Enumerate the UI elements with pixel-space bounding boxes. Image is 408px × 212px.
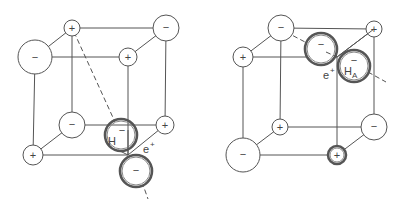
svg-text:+: + bbox=[162, 119, 168, 131]
displaced-anion: − bbox=[305, 33, 337, 65]
svg-text:−: − bbox=[318, 38, 324, 50]
svg-text:−: − bbox=[32, 51, 38, 63]
svg-text:−: − bbox=[278, 21, 284, 33]
svg-text:−: − bbox=[69, 118, 75, 130]
hydrogen-label: H bbox=[108, 135, 116, 147]
svg-text:+: + bbox=[69, 22, 75, 34]
hydrogen-a-anion: − H A bbox=[338, 50, 370, 82]
displaced-anion: − bbox=[120, 155, 152, 187]
svg-text:+: + bbox=[240, 51, 246, 63]
positron-label: e + bbox=[323, 66, 335, 81]
ion-plus: + bbox=[23, 145, 43, 165]
svg-text:−: − bbox=[240, 148, 246, 160]
hydrogen-anion: − H bbox=[105, 119, 137, 151]
svg-text:+: + bbox=[150, 140, 155, 149]
ion-plus: + bbox=[156, 116, 174, 134]
ion-minus: − bbox=[18, 40, 52, 74]
ion-plus-highlighted: + bbox=[328, 146, 346, 164]
right-cube: − + + + − − + − − H A e + bbox=[226, 15, 387, 172]
ion-minus: − bbox=[59, 112, 85, 138]
svg-text:−: − bbox=[133, 164, 139, 176]
svg-text:e: e bbox=[323, 69, 329, 81]
svg-text:−: − bbox=[163, 21, 169, 33]
svg-text:e: e bbox=[143, 143, 149, 155]
svg-text:−: − bbox=[119, 124, 125, 136]
svg-text:+: + bbox=[277, 121, 283, 133]
svg-text:+: + bbox=[125, 51, 131, 63]
svg-text:A: A bbox=[352, 71, 358, 80]
svg-text:+: + bbox=[334, 149, 340, 161]
ion-minus: − bbox=[153, 15, 179, 41]
diagram-canvas: + − − + − + + − H − e + bbox=[0, 0, 408, 212]
left-dashed-path bbox=[74, 32, 115, 122]
hydrogen-a-label: H bbox=[344, 65, 352, 77]
svg-text:−: − bbox=[371, 120, 377, 132]
ion-minus: − bbox=[361, 114, 387, 140]
svg-text:+: + bbox=[330, 66, 335, 75]
ion-plus: + bbox=[272, 119, 288, 135]
ion-plus: + bbox=[64, 20, 80, 36]
ion-minus: − bbox=[268, 15, 294, 41]
positron-label: e + bbox=[143, 140, 155, 155]
ion-plus: + bbox=[233, 47, 253, 67]
ion-plus: + bbox=[119, 48, 137, 66]
left-cube: + − − + − + + − H − e + bbox=[18, 15, 179, 199]
ion-minus: − bbox=[226, 138, 260, 172]
svg-text:+: + bbox=[30, 149, 36, 161]
